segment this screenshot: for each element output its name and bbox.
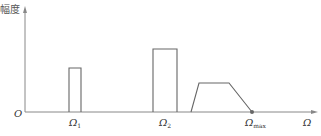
y-axis-arrow-icon (23, 6, 27, 13)
tick-omega-1: Ω1 (68, 117, 81, 129)
rect-pulse-2 (153, 49, 177, 112)
x-axis-arrow-icon (311, 110, 318, 114)
trapezoid-spectrum (191, 83, 252, 112)
tick-omega-2: Ω2 (158, 117, 171, 129)
omega-max-dot (250, 110, 254, 114)
rect-pulse-1 (69, 68, 81, 112)
x-axis-label: Ω (302, 117, 311, 128)
y-axis-label: 幅度 (0, 3, 20, 15)
tick-omega-max: Ωmax (244, 117, 267, 129)
spectrum-diagram: 幅度 O Ω Ω1 Ω2 Ωmax (0, 0, 321, 136)
origin-label: O (14, 108, 22, 119)
